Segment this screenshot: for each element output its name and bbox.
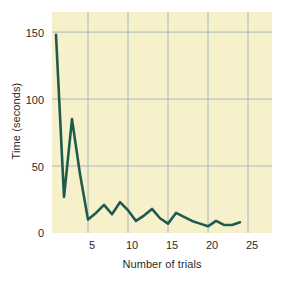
y-tick-label-50: 50 [14,161,44,173]
chart-svg [52,12,272,233]
x-tick-label-20: 20 [197,239,227,251]
x-tick-label-15: 15 [157,239,187,251]
x-tick-label-5: 5 [77,239,107,251]
plot-area [52,12,272,233]
x-axis-label: Number of trials [52,258,272,270]
x-tick-label-25: 25 [237,239,267,251]
y-tick-label-150: 150 [14,27,44,39]
chart-figure: Time (seconds) Number of trials 150 100 … [0,0,290,284]
y-tick-label-100: 100 [14,94,44,106]
x-tick-label-10: 10 [117,239,147,251]
y-tick-label-0: 0 [14,227,44,239]
